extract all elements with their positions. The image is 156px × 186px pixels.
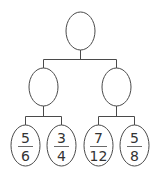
numerator: 5: [130, 130, 139, 146]
denominator: 6: [21, 148, 30, 164]
denominator: 4: [57, 148, 66, 164]
fraction-tree-diagram: 5 6 3 4 7 12 5 8: [0, 0, 156, 186]
middle-node-left: [29, 68, 58, 106]
numerator: 3: [57, 130, 66, 146]
denominator: 12: [90, 148, 108, 164]
middle-node-right: [102, 68, 131, 106]
root-node: [66, 12, 95, 50]
numerator: 5: [21, 130, 30, 146]
leaf-node: 7 12: [84, 125, 113, 166]
leaf-node: 5 8: [120, 125, 149, 166]
leaf-node: 3 4: [47, 125, 76, 166]
denominator: 8: [130, 148, 139, 164]
leaf-node: 5 6: [11, 125, 40, 166]
numerator: 7: [94, 130, 103, 146]
